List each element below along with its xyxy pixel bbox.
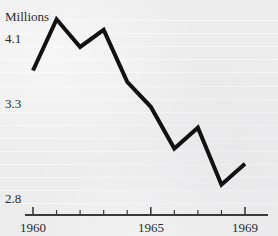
y-tick-label-bottom: 2.8 (5, 192, 21, 205)
x-tick-label-1965: 1965 (138, 221, 164, 234)
plot-area (0, 0, 278, 236)
data-series-line (33, 19, 245, 184)
y-tick-label-mid: 3.3 (5, 97, 21, 110)
x-tick-label-1969: 1969 (232, 221, 258, 234)
y-axis-title: Millions (5, 10, 49, 23)
x-axis-ticks (33, 207, 245, 214)
line-chart: Millions 4.1 3.3 2.8 1960 1965 1969 (0, 0, 278, 236)
x-tick-label-1960: 1960 (20, 221, 46, 234)
y-tick-label-top: 4.1 (5, 32, 21, 45)
x-axis (25, 207, 268, 215)
